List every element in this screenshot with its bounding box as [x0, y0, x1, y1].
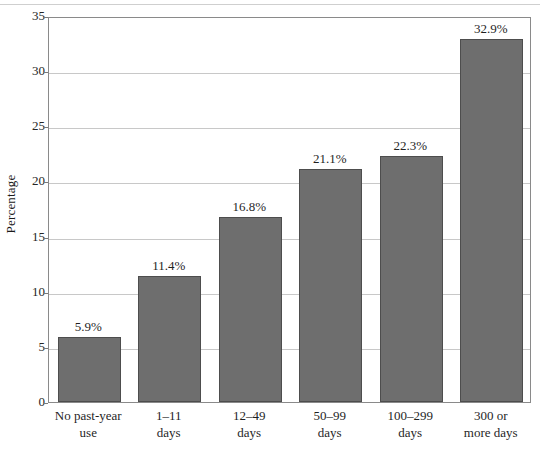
x-axis-tick-label-line: days: [365, 424, 456, 441]
y-axis-tick-label: 35: [5, 8, 45, 24]
x-axis-tick-label-line: more days: [445, 424, 536, 441]
gridline: [49, 239, 530, 240]
gridline: [49, 349, 530, 350]
x-axis-tick-label-line: days: [284, 424, 375, 441]
gridline: [49, 294, 530, 295]
bar: [138, 276, 201, 402]
x-axis-tick-label-line: 50–99: [284, 407, 375, 424]
top-divider-rule: [0, 4, 540, 5]
x-axis-tick-label: No past-yearuse: [43, 407, 134, 441]
bar-value-label: 21.1%: [286, 151, 373, 167]
y-axis-tick-label: 20: [5, 173, 45, 189]
x-axis-tick-label: 50–99days: [284, 407, 375, 441]
x-axis-tick-label-line: days: [123, 424, 214, 441]
gridline: [49, 183, 530, 184]
x-axis-tick-label-line: days: [204, 424, 295, 441]
gridline: [49, 128, 530, 129]
bar: [219, 217, 282, 402]
bar: [58, 337, 121, 402]
x-axis-tick-label: 100–299days: [365, 407, 456, 441]
gridline: [49, 73, 530, 74]
bar: [299, 169, 362, 402]
x-axis-tick-label-line: 1–11: [123, 407, 214, 424]
bar: [460, 39, 523, 402]
bar-value-label: 32.9%: [447, 21, 534, 37]
bar-value-label: 22.3%: [367, 138, 454, 154]
bar: [380, 156, 443, 402]
x-axis-tick-label-line: use: [43, 424, 134, 441]
y-axis-tick-mark: [43, 403, 48, 404]
y-axis-tick-label: 0: [5, 394, 45, 410]
x-axis-tick-label: 1–11days: [123, 407, 214, 441]
x-axis-tick-label-line: 12–49: [204, 407, 295, 424]
y-axis-tick-label: 30: [5, 63, 45, 79]
bar-value-label: 16.8%: [206, 199, 293, 215]
x-axis-tick-label: 12–49days: [204, 407, 295, 441]
y-axis-tick-label: 15: [5, 229, 45, 245]
y-axis-tick-label: 10: [5, 284, 45, 300]
x-axis-tick-label: 300 ormore days: [445, 407, 536, 441]
bar-value-label: 11.4%: [125, 258, 212, 274]
x-axis-tick-label-line: 100–299: [365, 407, 456, 424]
x-axis-tick-label-line: 300 or: [445, 407, 536, 424]
bar-value-label: 5.9%: [45, 319, 132, 335]
x-axis-tick-label-line: No past-year: [43, 407, 134, 424]
y-axis-tick-label: 5: [5, 339, 45, 355]
y-axis-tick-label: 25: [5, 118, 45, 134]
bar-chart-figure: Percentage 05101520253035 5.9%11.4%16.8%…: [0, 0, 540, 449]
